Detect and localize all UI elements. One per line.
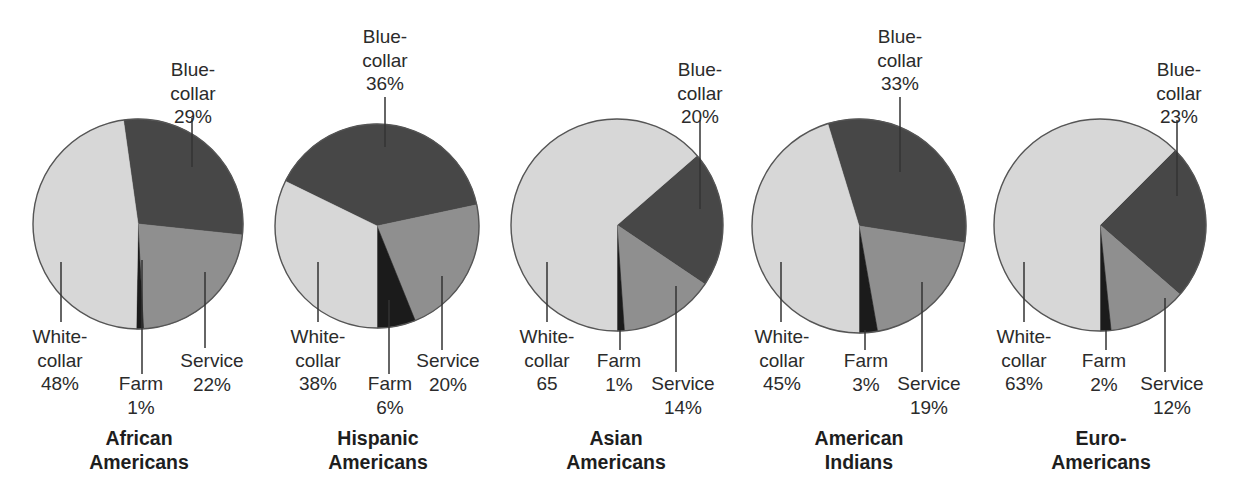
slice-label-line: 6% bbox=[368, 396, 412, 420]
pie-title-line: Americans bbox=[89, 450, 189, 474]
slice-label-blue-collar: Blue-collar36% bbox=[362, 25, 407, 96]
slice-label-line: Blue- bbox=[877, 25, 922, 49]
slice-label-line: Farm bbox=[119, 372, 163, 396]
slice-label-line: 33% bbox=[877, 72, 922, 96]
slice-label-white-collar: White-collar38% bbox=[291, 325, 346, 396]
slice-label-blue-collar: Blue-collar20% bbox=[677, 58, 722, 129]
pie-title-line: American bbox=[815, 426, 904, 450]
slice-label-line: 45% bbox=[755, 372, 810, 396]
slice-label-line: collar bbox=[520, 349, 575, 373]
slice-label-line: White- bbox=[520, 325, 575, 349]
slice-label-line: Farm bbox=[368, 372, 412, 396]
slice-label-service: Service20% bbox=[416, 349, 479, 396]
slice-label-line: 1% bbox=[119, 396, 163, 420]
slice-label-line: Blue- bbox=[1156, 58, 1201, 82]
slice-label-line: Farm bbox=[597, 349, 641, 373]
slice-label-line: White- bbox=[291, 325, 346, 349]
slice-label-line: collar bbox=[33, 349, 88, 373]
slice-label-line: 20% bbox=[416, 373, 479, 397]
pie-title-line: Americans bbox=[566, 450, 666, 474]
slice-label-white-collar: White-collar45% bbox=[755, 325, 810, 396]
slice-label-line: Service bbox=[416, 349, 479, 373]
slice-label-line: collar bbox=[362, 49, 407, 73]
slice-label-line: Blue- bbox=[170, 58, 215, 82]
slice-label-white-collar: White-collar48% bbox=[33, 325, 88, 396]
slice-label-line: White- bbox=[33, 325, 88, 349]
slice-label-line: 3% bbox=[844, 373, 888, 397]
slice-label-white-collar: White-collar63% bbox=[997, 325, 1052, 396]
slice-white-collar bbox=[33, 120, 138, 329]
slice-label-line: 22% bbox=[180, 373, 243, 397]
slice-label-line: collar bbox=[291, 349, 346, 373]
slice-label-line: Service bbox=[1140, 372, 1203, 396]
pie-title-asian-americans: AsianAmericans bbox=[566, 426, 666, 474]
slice-label-line: 65 bbox=[520, 372, 575, 396]
slice-label-line: Farm bbox=[1082, 349, 1126, 373]
slice-label-service: Service22% bbox=[180, 349, 243, 396]
slice-label-line: 63% bbox=[997, 372, 1052, 396]
slice-label-service: Service19% bbox=[897, 372, 960, 419]
slice-label-line: 1% bbox=[597, 373, 641, 397]
pie-title-line: Euro- bbox=[1051, 426, 1151, 450]
slice-label-line: Service bbox=[897, 372, 960, 396]
slice-label-farm: Farm3% bbox=[844, 349, 888, 396]
slice-label-line: collar bbox=[170, 82, 215, 106]
slice-label-line: 12% bbox=[1140, 396, 1203, 420]
slice-label-farm: Farm1% bbox=[119, 372, 163, 419]
pie-title-line: African bbox=[89, 426, 189, 450]
slice-label-line: 38% bbox=[291, 372, 346, 396]
pie-title-hispanic-americans: HispanicAmericans bbox=[328, 426, 428, 474]
slice-label-line: 36% bbox=[362, 72, 407, 96]
pie-title-line: Indians bbox=[815, 450, 904, 474]
slice-label-service: Service12% bbox=[1140, 372, 1203, 419]
slice-label-service: Service14% bbox=[651, 372, 714, 419]
slice-label-blue-collar: Blue-collar33% bbox=[877, 25, 922, 96]
slice-blue-collar bbox=[123, 119, 243, 235]
slice-label-line: collar bbox=[1156, 82, 1201, 106]
slice-label-line: Blue- bbox=[677, 58, 722, 82]
slice-label-line: 2% bbox=[1082, 373, 1126, 397]
slice-label-line: White- bbox=[755, 325, 810, 349]
pie-title-line: Hispanic bbox=[328, 426, 428, 450]
slice-label-line: White- bbox=[997, 325, 1052, 349]
slice-label-line: collar bbox=[877, 49, 922, 73]
slice-label-line: 29% bbox=[170, 105, 215, 129]
slice-label-line: Service bbox=[180, 349, 243, 373]
slice-label-line: collar bbox=[677, 82, 722, 106]
slice-label-line: Farm bbox=[844, 349, 888, 373]
slice-label-line: collar bbox=[997, 349, 1052, 373]
pie-title-line: Asian bbox=[566, 426, 666, 450]
slice-label-line: 48% bbox=[33, 372, 88, 396]
slice-label-white-collar: White-collar65 bbox=[520, 325, 575, 396]
pie-title-line: Americans bbox=[1051, 450, 1151, 474]
pie-title-euro-americans: Euro-Americans bbox=[1051, 426, 1151, 474]
slice-label-line: 19% bbox=[897, 396, 960, 420]
pie-title-american-indians: AmericanIndians bbox=[815, 426, 904, 474]
slice-label-line: 20% bbox=[677, 105, 722, 129]
slice-label-blue-collar: Blue-collar23% bbox=[1156, 58, 1201, 129]
slice-label-blue-collar: Blue-collar29% bbox=[170, 58, 215, 129]
pie-title-line: Americans bbox=[328, 450, 428, 474]
slice-label-farm: Farm1% bbox=[597, 349, 641, 396]
slice-label-farm: Farm2% bbox=[1082, 349, 1126, 396]
slice-service bbox=[138, 224, 242, 329]
slice-label-line: Service bbox=[651, 372, 714, 396]
slice-label-line: 23% bbox=[1156, 105, 1201, 129]
slice-label-line: 14% bbox=[651, 396, 714, 420]
pie-title-african-americans: AfricanAmericans bbox=[89, 426, 189, 474]
slice-label-line: collar bbox=[755, 349, 810, 373]
slice-label-farm: Farm6% bbox=[368, 372, 412, 419]
slice-label-line: Blue- bbox=[362, 25, 407, 49]
